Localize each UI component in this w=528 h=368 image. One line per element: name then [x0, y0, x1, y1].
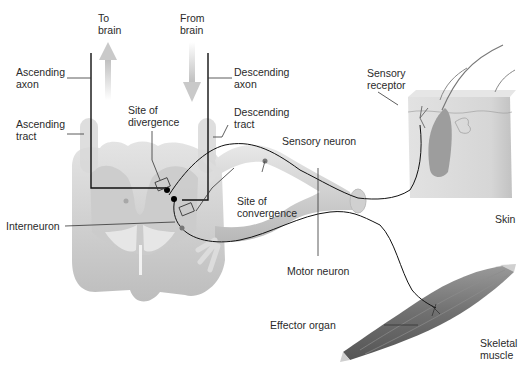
label-interneuron: Interneuron — [6, 220, 60, 232]
label-from-brain: Frombrain — [180, 12, 205, 36]
label-effector-organ: Effector organ — [270, 319, 336, 331]
descending-arrow-icon — [183, 42, 201, 102]
label-descending-tract: Descendingtract — [234, 106, 289, 130]
ascending-arrow-icon — [99, 42, 117, 100]
label-site-of-divergence: Site ofdivergence — [128, 104, 179, 128]
label-skin: Skin — [495, 213, 515, 225]
reflex-diagram — [0, 0, 528, 368]
label-sensory-receptor: Sensoryreceptor — [367, 67, 406, 91]
spinal-cord — [72, 118, 225, 302]
label-skeletal-muscle: Skeletalmuscle — [480, 337, 517, 361]
label-descending-axon: Descendingaxon — [234, 66, 289, 90]
label-sensory-neuron: Sensory neuron — [282, 135, 356, 147]
label-to-brain: Tobrain — [98, 12, 121, 36]
skin-block — [408, 45, 516, 198]
synapse-dot — [171, 196, 177, 202]
interneuron-body — [180, 226, 185, 231]
label-ascending-tract: Ascendingtract — [16, 118, 65, 142]
label-ascending-axon: Ascendingaxon — [16, 66, 65, 90]
label-site-of-convergence: Site ofconvergence — [237, 195, 297, 219]
label-motor-neuron: Motor neuron — [287, 265, 349, 277]
